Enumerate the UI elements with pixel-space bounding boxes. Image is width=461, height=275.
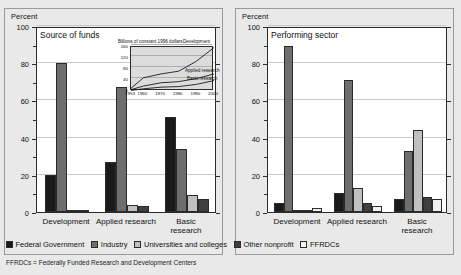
bar (363, 203, 373, 212)
legend-swatch-icon (91, 241, 98, 248)
y-tick-label: 80 (7, 60, 29, 69)
y-tick-label: 0 (7, 209, 29, 218)
legend: Federal GovernmentIndustryUniversities a… (6, 240, 456, 249)
panel-source-of-funds: Percent Source of funds 020406080100 Dev… (4, 8, 223, 255)
bar (187, 195, 198, 212)
x-tick-label: Basic research (168, 217, 204, 235)
x-tick-label: Development (42, 217, 89, 226)
legend-item[interactable]: Other nonprofit (234, 240, 294, 249)
bar-group (388, 28, 448, 212)
y-tick-right (447, 27, 451, 28)
x-tick-label: Applied research (327, 217, 387, 226)
panel-title-sector: Performing sector (271, 30, 338, 40)
bar (67, 210, 78, 212)
inset-series-label: Basic research (187, 76, 217, 81)
y-tick-minor (33, 157, 36, 158)
legend-swatch-icon (300, 241, 307, 248)
y-tick-minor (33, 46, 36, 47)
inset-series-label: Applied research (185, 68, 219, 73)
y-tick-label: 100 (238, 23, 260, 32)
inset-x-tick-label: 1990 (190, 91, 200, 96)
bar-group (268, 28, 328, 212)
bar (312, 208, 322, 212)
y-tick-label: 80 (238, 60, 260, 69)
y-tick-right (216, 27, 220, 28)
bar (394, 199, 404, 212)
legend-label: FFRDCs (310, 240, 339, 249)
y-tick-major (32, 139, 36, 140)
bar-group (37, 28, 97, 212)
bar (116, 87, 127, 212)
bar (284, 46, 294, 212)
legend-item[interactable]: Federal Government (6, 240, 84, 249)
bar (344, 80, 354, 212)
x-tick-label: Development (273, 217, 320, 226)
legend-label: Universities and colleges (144, 240, 227, 249)
y-tick-major (32, 213, 36, 214)
bar (303, 210, 313, 212)
bar (78, 210, 89, 212)
y-tick-right (216, 101, 220, 102)
x-tick-label: Applied research (96, 217, 156, 226)
footnote: FFRDCs = Federally Funded Research and D… (6, 259, 196, 266)
inset-y-tick-label: 160 (117, 44, 128, 49)
y-tick-major (263, 64, 267, 65)
y-tick-minor (264, 46, 267, 47)
y-tick-right (216, 213, 220, 214)
legend-item[interactable]: Universities and colleges (134, 240, 226, 249)
figure-root: Percent Source of funds 020406080100 Dev… (0, 0, 461, 275)
bar (293, 210, 303, 212)
bar (274, 203, 284, 212)
y-tick-right (447, 64, 451, 65)
y-tick-label: 20 (7, 171, 29, 180)
legend-swatch-icon (134, 241, 141, 248)
bar-series-sector (268, 28, 446, 212)
plot-area-sector (267, 27, 447, 213)
legend-item[interactable]: Industry (91, 240, 127, 249)
y-axis-unit-label-right: Percent (242, 12, 269, 21)
y-tick-label: 40 (7, 134, 29, 143)
bar (105, 162, 116, 212)
inset-gridline (131, 44, 212, 45)
y-tick-right (447, 213, 451, 214)
bar (127, 205, 138, 212)
y-tick-major (263, 27, 267, 28)
bar (372, 206, 382, 212)
y-tick-major (263, 176, 267, 177)
inset-series-label: Development (183, 39, 210, 44)
y-tick-major (263, 139, 267, 140)
y-tick-right (216, 176, 220, 177)
bar (176, 149, 187, 212)
y-tick-right (447, 139, 451, 140)
y-tick-major (32, 27, 36, 28)
legend-item[interactable]: FFRDCs (300, 240, 339, 249)
y-tick-label: 60 (7, 97, 29, 106)
y-tick-major (263, 213, 267, 214)
bar (334, 193, 344, 212)
bar (423, 197, 433, 212)
legend-label: Federal Government (16, 240, 85, 249)
bar (353, 188, 363, 212)
panel-title-source: Source of funds (40, 30, 100, 40)
bar (165, 117, 176, 212)
y-tick-label: 100 (7, 23, 29, 32)
legend-swatch-icon (234, 241, 241, 248)
y-tick-right (447, 176, 451, 177)
y-tick-minor (264, 157, 267, 158)
inset-y-tick-label: 40 (117, 77, 128, 82)
bar (45, 175, 56, 212)
inset-x-tick-label: 1970 (155, 91, 165, 96)
y-tick-major (263, 101, 267, 102)
inset-x-tick-label: 1960 (137, 91, 147, 96)
y-axis-unit-label: Percent (11, 12, 38, 21)
y-tick-right (216, 139, 220, 140)
inset-line-chart: Billions of constant 1996 dollars 040801… (117, 39, 215, 101)
inset-y-tick-label: 80 (117, 66, 128, 71)
x-tick-label: Basic research (399, 217, 435, 235)
inset-x-tick-label: 1953 (125, 91, 135, 96)
y-tick-label: 0 (238, 209, 260, 218)
gridline (37, 25, 215, 26)
y-tick-minor (33, 120, 36, 121)
y-tick-right (447, 101, 451, 102)
inset-y-tick-label: 120 (117, 55, 128, 60)
